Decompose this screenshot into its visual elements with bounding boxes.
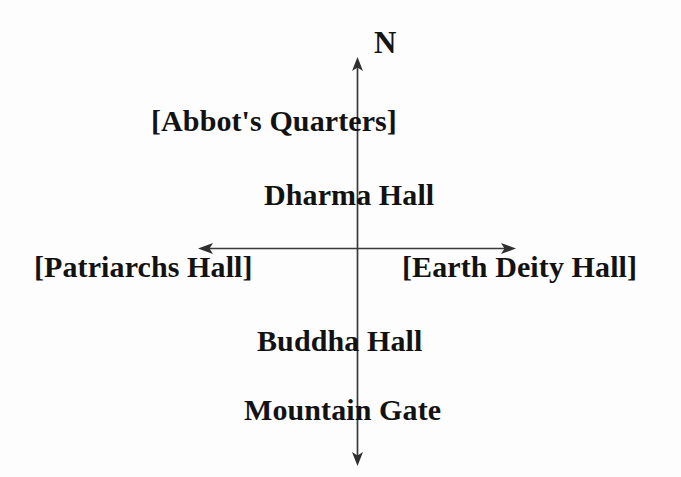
label-patriarchs-hall: [Patriarchs Hall]	[34, 252, 253, 282]
arrowhead-north	[352, 57, 363, 71]
label-dharma-hall: Dharma Hall	[264, 180, 434, 210]
compass-north-label: N	[374, 27, 396, 58]
label-buddha-hall: Buddha Hall	[257, 326, 422, 356]
label-abbots-quarters: [Abbot's Quarters]	[151, 106, 397, 136]
monastery-layout-diagram: N [Abbot's Quarters] Dharma Hall [Patria…	[0, 0, 681, 477]
arrowhead-south	[352, 452, 363, 466]
label-mountain-gate: Mountain Gate	[244, 395, 441, 425]
label-earth-deity-hall: [Earth Deity Hall]	[402, 252, 637, 282]
